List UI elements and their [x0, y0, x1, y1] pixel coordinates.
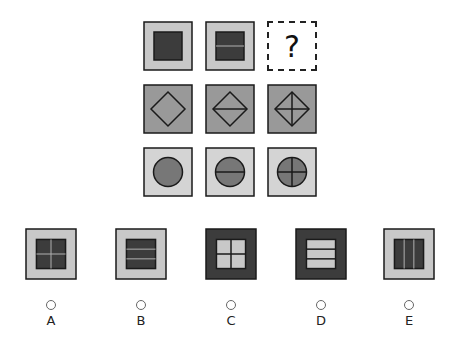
puzzle-cell-circle [143, 147, 193, 197]
option-label: C [205, 313, 257, 328]
option-radio[interactable] [316, 300, 326, 310]
option-figure [115, 228, 167, 280]
inner-square [126, 239, 155, 268]
puzzle-cell-circle [205, 147, 255, 197]
option-radio[interactable] [226, 300, 236, 310]
option-label: D [295, 313, 347, 328]
inner-square [394, 239, 423, 268]
option-figure [383, 228, 435, 280]
circle-shape [154, 158, 183, 187]
inner-square [154, 32, 182, 60]
question-mark: ? [284, 29, 300, 64]
inner-square [306, 239, 335, 268]
option-figure [25, 228, 77, 280]
option-e[interactable]: E [383, 228, 435, 328]
puzzle-cell-square [143, 21, 193, 71]
option-radio[interactable] [404, 300, 414, 310]
option-a[interactable]: A [25, 228, 77, 328]
option-radio[interactable] [136, 300, 146, 310]
puzzle-cell-circle [267, 147, 317, 197]
option-b[interactable]: B [115, 228, 167, 328]
option-d[interactable]: D [295, 228, 347, 328]
missing-cell: ? [267, 21, 317, 71]
option-label: A [25, 313, 77, 328]
puzzle-cell-diamond [205, 84, 255, 134]
option-radio[interactable] [46, 300, 56, 310]
option-c[interactable]: C [205, 228, 257, 328]
puzzle-cell-square [205, 21, 255, 71]
option-label: E [383, 313, 435, 328]
puzzle-cell-diamond [267, 84, 317, 134]
option-figure [295, 228, 347, 280]
option-label: B [115, 313, 167, 328]
puzzle-cell-diamond [143, 84, 193, 134]
option-figure [205, 228, 257, 280]
